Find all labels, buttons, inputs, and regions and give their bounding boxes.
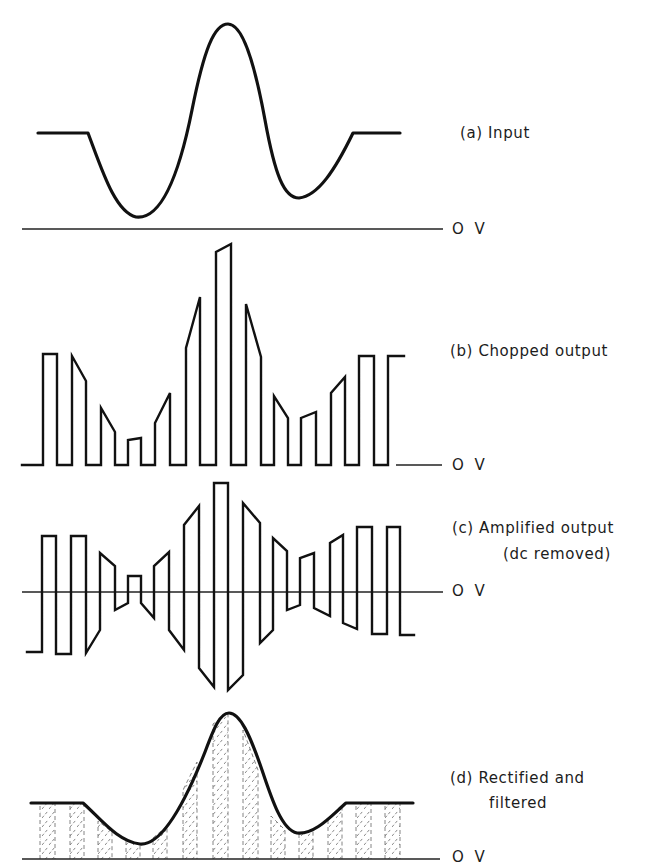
panel-c-label-line1: (c) Amplified output — [452, 521, 614, 536]
panel-b-chopped-output — [22, 244, 442, 465]
panel-d-zero-label: O V — [452, 850, 488, 865]
amplified-waveform — [27, 483, 414, 690]
panel-d-rectified-filtered — [22, 713, 440, 859]
chopper-amplifier-waveform-diagram — [0, 0, 647, 865]
panel-c-zero-label: O V — [452, 584, 488, 599]
chopped-waveform — [22, 244, 404, 465]
rectified-hatched-columns — [40, 713, 400, 859]
input-waveform — [38, 24, 400, 217]
panel-b-zero-label: O V — [452, 458, 488, 473]
panel-a-zero-label: O V — [452, 222, 488, 237]
panel-b-label: (b) Chopped output — [450, 344, 608, 359]
panel-c-amplified-output — [22, 483, 443, 690]
panel-d-label-line1: (d) Rectified and — [450, 771, 585, 786]
panel-d-label-line2: filtered — [489, 796, 547, 811]
panel-a-input — [22, 24, 443, 229]
panel-a-label: (a) Input — [460, 126, 530, 141]
panel-c-label-line2: (dc removed) — [503, 547, 611, 562]
